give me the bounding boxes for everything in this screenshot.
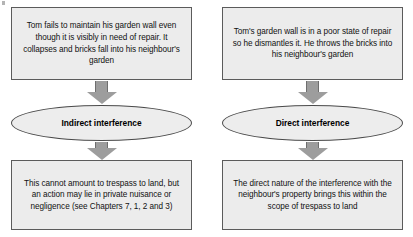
outcome-box-indirect: This cannot amount to trespass to land, … bbox=[11, 160, 192, 230]
classification-label-direct: Direct interference bbox=[276, 118, 350, 128]
flowchart-column-direct: Tom's garden wall is in a poor state of … bbox=[222, 0, 403, 237]
arrow-head bbox=[298, 92, 328, 104]
arrow-head bbox=[298, 148, 328, 160]
down-arrow-icon-indirect-top bbox=[87, 81, 117, 104]
classification-label-indirect: Indirect interference bbox=[61, 118, 141, 128]
outcome-box-direct: The direct nature of the interference wi… bbox=[222, 160, 403, 230]
flowchart-canvas: Tom fails to maintain his garden wall ev… bbox=[0, 0, 413, 237]
outcome-text-direct: The direct nature of the interference wi… bbox=[223, 178, 402, 213]
scan-artifact bbox=[2, 1, 5, 5]
arrow-shaft bbox=[306, 81, 319, 92]
scenario-text-direct: Tom's garden wall is in a poor state of … bbox=[223, 26, 402, 61]
outcome-text-indirect: This cannot amount to trespass to land, … bbox=[12, 178, 191, 213]
scenario-box-direct: Tom's garden wall is in a poor state of … bbox=[222, 7, 403, 80]
down-arrow-icon-indirect-bottom bbox=[87, 142, 117, 160]
classification-ellipse-direct: Direct interference bbox=[222, 105, 403, 141]
down-arrow-icon-direct-bottom bbox=[298, 142, 328, 160]
down-arrow-icon-direct-top bbox=[298, 81, 328, 104]
classification-ellipse-indirect: Indirect interference bbox=[11, 105, 192, 141]
arrow-head bbox=[87, 148, 117, 160]
arrow-shaft bbox=[95, 81, 108, 92]
scenario-text-indirect: Tom fails to maintain his garden wall ev… bbox=[12, 20, 191, 66]
scenario-box-indirect: Tom fails to maintain his garden wall ev… bbox=[11, 7, 192, 80]
arrow-head bbox=[87, 92, 117, 104]
flowchart-column-indirect: Tom fails to maintain his garden wall ev… bbox=[11, 0, 192, 237]
